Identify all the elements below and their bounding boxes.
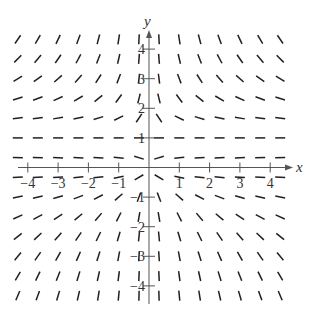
x-tick-label: −3 [51,176,66,191]
slope-segment [179,291,180,301]
slope-segment [176,95,182,103]
slope-segment [97,271,99,281]
slope-segment [277,55,284,62]
slope-segment [199,291,201,301]
slope-segment [238,35,242,44]
slope-segment [276,233,284,239]
slope-segment [35,35,40,44]
slope-segment [257,252,263,260]
slope-segment [259,291,262,300]
slope-segment [77,271,80,281]
slope-segment [195,157,205,158]
slope-segment [218,271,221,281]
slope-field-figure: x y −4−3−2−11234−4−3−2−11234 [0,0,316,316]
slope-segment [197,74,202,82]
slope-segment [54,96,63,100]
y-tick-label: −3 [130,249,145,264]
slope-segment [115,194,123,201]
slope-segment [195,195,204,200]
slope-segment [256,215,265,220]
slope-segment [95,95,103,101]
slope-segment [238,271,242,280]
slope-segment [215,195,224,199]
x-tick-label: 4 [267,176,274,191]
slope-segment [53,117,63,119]
slope-segment [33,196,43,198]
y-tick-label: −2 [130,220,145,235]
slope-segment [154,156,164,159]
slope-segment [57,291,60,301]
slope-segment [14,233,22,239]
slope-segment [275,97,285,100]
slope-segment [15,252,21,260]
slope-segment [255,196,265,198]
slope-segment [238,291,241,301]
slope-segment [275,118,285,119]
slope-segment [15,272,20,281]
y-tick-label: −4 [130,279,145,294]
slope-segment [276,76,285,81]
y-tick-label: 2 [138,101,145,116]
slope-segment [76,232,82,240]
slope-segment [118,251,120,261]
slope-segment [74,117,84,119]
x-tick-label: 2 [206,176,213,191]
slope-segment [14,55,21,62]
slope-segment [159,251,160,261]
slope-segment [158,74,159,84]
slope-segment [98,291,100,301]
slope-segment [56,252,61,261]
slope-segment [14,76,23,81]
slope-segment [215,177,225,178]
slope-segment [97,34,100,44]
slope-segment [76,252,80,261]
x-tick-label: 3 [236,176,243,191]
slope-segment [256,97,265,100]
slope-segment [237,252,242,261]
slope-segment [277,35,283,43]
slope-segment [198,34,201,44]
slope-segment [255,117,265,118]
slope-segment [118,291,119,301]
slope-segment [198,54,202,63]
slope-segment [197,232,201,241]
slope-segment [77,291,79,301]
slope-segment [96,232,100,241]
slope-segment [277,252,283,260]
slope-segment [116,212,121,221]
slope-segment [196,95,204,101]
slope-segment [74,96,83,101]
slope-segment [77,35,80,44]
slope-segment [94,117,104,120]
slope-segment [33,117,43,118]
slope-segment [34,233,41,240]
slope-segment [33,97,42,100]
slope-segment [215,117,225,119]
slope-segment [54,214,62,219]
slope-segment [117,232,120,242]
y-tick-label: −1 [130,190,145,205]
x-tick-label: −2 [81,176,96,191]
slope-segment [35,55,41,63]
x-axis-arrow-icon [285,165,293,171]
y-tick-label: 3 [138,72,145,87]
slope-segment [118,34,120,44]
slope-segment [215,96,224,101]
slope-segment [177,212,182,221]
slope-segment [257,55,263,63]
slope-segment [195,117,205,120]
slope-segment [93,157,103,158]
slope-segment [55,233,62,241]
slope-segment [96,74,101,82]
slope-segment [178,54,180,64]
slope-segment [275,196,285,198]
slope-segment [258,272,262,281]
y-tick-label: 4 [138,42,145,57]
slope-segment [198,252,201,262]
slope-segment [237,55,243,63]
slope-segment [218,252,222,261]
y-tick-label: 1 [138,131,145,146]
slope-segment [158,94,160,104]
slope-segment [218,35,221,44]
x-tick-label: −4 [20,176,35,191]
